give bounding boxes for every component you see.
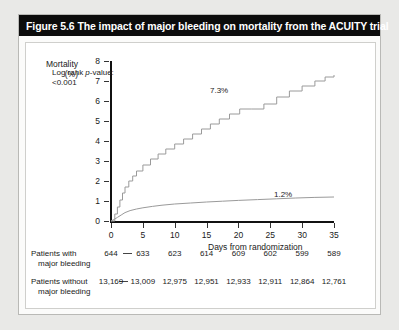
risk-row-label-line2: major bleeding [31,287,117,297]
figure-container: Figure 5.6 The impact of major bleeding … [18,14,381,315]
curve-no-major-bleeding [111,197,334,221]
figure-title: Figure 5.6 The impact of major bleeding … [19,15,380,36]
risk-row-label-line2: major bleeding [31,259,117,269]
risk-table-cell: 12,761 [311,277,357,286]
curve-major-bleeding [111,75,334,221]
table-row: Patients withmajor bleeding6446336236146… [26,249,377,277]
table-row: Patients withoutmajor bleeding13,16913,0… [26,277,377,305]
risk-table-cell: 589 [311,249,357,258]
figure-body: Mortality (%) 012345678 05101520253035 L… [25,42,376,309]
risk-table: Patients withmajor bleeding6446336236146… [26,249,377,305]
chart-plot-area: Mortality (%) 012345678 05101520253035 L… [26,43,377,243]
chart-curves [26,43,377,243]
